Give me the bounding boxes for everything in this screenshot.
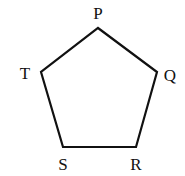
vertex-label-r: R [130,155,142,174]
vertex-label-t: T [20,64,31,83]
vertex-label-p: P [93,4,102,23]
pentagon-shape [41,28,157,147]
vertex-label-q: Q [164,66,176,85]
vertex-label-s: S [58,155,67,174]
pentagon-diagram: P Q R S T [0,0,185,176]
